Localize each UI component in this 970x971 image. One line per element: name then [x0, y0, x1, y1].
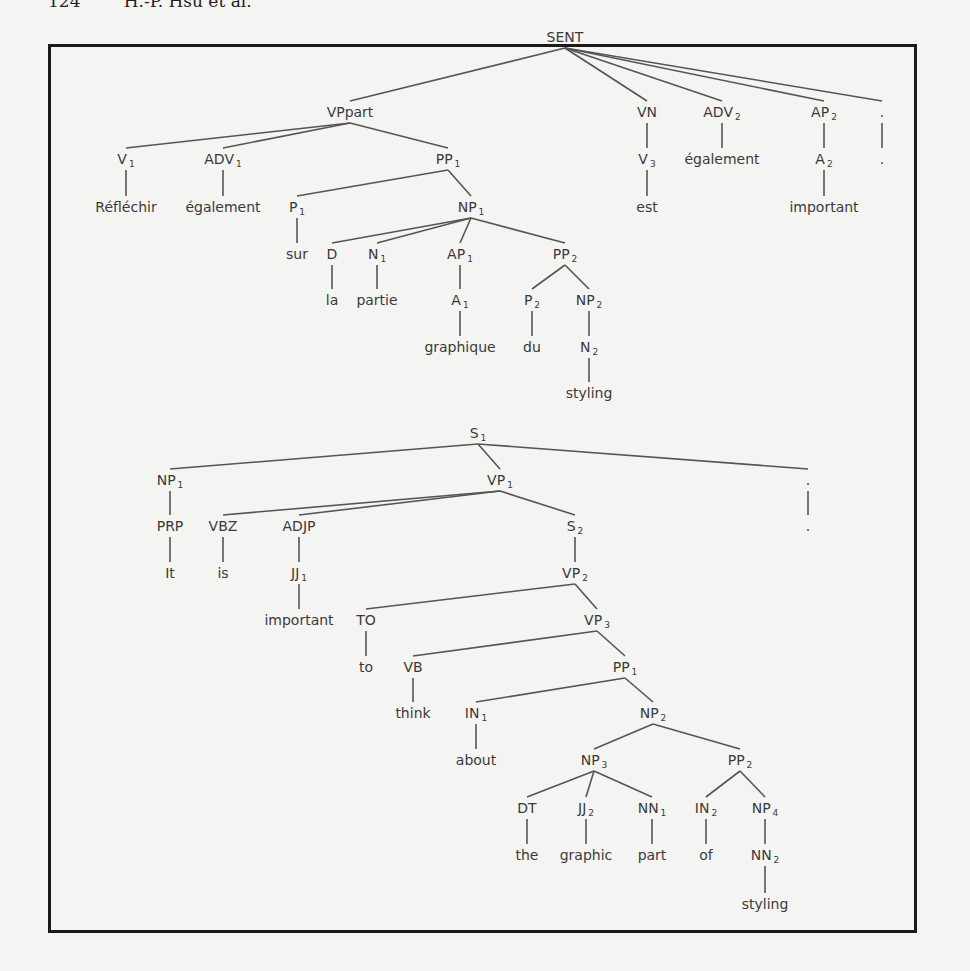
tree-edge — [500, 491, 575, 515]
tree-edge — [594, 724, 653, 749]
tree-edge — [377, 218, 471, 243]
tree-edge — [350, 123, 448, 148]
tree-node-label: ADJP — [283, 518, 316, 534]
tree-node-label: JJ2 — [577, 800, 594, 818]
parse-tree-diagram: SENTVPpartVNADV2AP2.V1ADV1PP1V3également… — [0, 0, 970, 971]
tree-node-label: . — [880, 104, 884, 120]
tree-edge — [653, 724, 740, 749]
tree-edge — [706, 771, 740, 797]
tree-leaf-word: styling — [742, 896, 789, 912]
tree-node-label: VB — [403, 659, 422, 675]
tree-leaf-word: styling — [566, 385, 613, 401]
tree-node-label: NN1 — [638, 800, 667, 818]
tree-node-label: VN — [637, 104, 657, 120]
tree-node-label: S2 — [567, 518, 584, 536]
tree-edge — [413, 631, 597, 656]
tree-node-label: PP2 — [553, 246, 578, 264]
tree-edge — [565, 48, 882, 101]
tree-node-label: NN2 — [751, 847, 780, 865]
tree-node-label: AP1 — [447, 246, 473, 264]
tree-node-label: DT — [517, 800, 537, 816]
tree-edge — [597, 631, 625, 656]
tree-node-label: N2 — [580, 339, 598, 357]
tree-edges — [126, 48, 882, 893]
tree-node-label: PRP — [157, 518, 184, 534]
tree-node-label: PP1 — [436, 151, 461, 169]
tree-leaf-word: Réfléchir — [95, 199, 157, 215]
tree-node-label: VP3 — [584, 612, 610, 630]
tree-edge — [460, 218, 471, 243]
tree-edge — [478, 444, 808, 469]
tree-leaf-word: également — [185, 199, 261, 215]
tree-node-label: N1 — [368, 246, 386, 264]
tree-edge — [170, 444, 478, 469]
tree-leaf-word: part — [638, 847, 667, 863]
tree-node-label: P1 — [289, 199, 305, 217]
tree-node-label: IN2 — [695, 800, 717, 818]
tree-leaf-word: think — [395, 705, 431, 721]
tree-edge — [350, 48, 565, 101]
tree-edge — [565, 265, 589, 289]
tree-node-label: NP3 — [581, 752, 608, 770]
tree-edge — [476, 678, 625, 702]
tree-node-label: A2 — [815, 151, 832, 169]
tree-edge — [299, 491, 500, 515]
tree-node-label: D — [327, 246, 338, 262]
tree-leaf-word: graphic — [560, 847, 613, 863]
tree-leaf-word: la — [326, 292, 338, 308]
tree-node-label: NP2 — [576, 292, 603, 310]
tree-node-label: IN1 — [465, 705, 487, 723]
tree-leaf-word: également — [684, 151, 760, 167]
tree-edge — [740, 771, 765, 797]
tree-leaf-word: important — [789, 199, 859, 215]
tree-node-label: ADV1 — [204, 151, 241, 169]
tree-node-label: NP4 — [752, 800, 779, 818]
tree-node-label: A1 — [451, 292, 468, 310]
tree-leaf-word: to — [359, 659, 373, 675]
tree-node-label: SENT — [547, 29, 584, 45]
tree-node-label: VPpart — [327, 104, 374, 120]
tree-node-label: VP1 — [487, 472, 513, 490]
tree-edge — [575, 584, 597, 609]
tree-edge — [532, 265, 565, 289]
tree-edge — [527, 771, 594, 797]
tree-leaf-word: It — [165, 565, 175, 581]
tree-node-label: . — [806, 472, 810, 488]
tree-node-label: ADV2 — [703, 104, 740, 122]
tree-node-label: NP1 — [458, 199, 485, 217]
tree-edge — [586, 771, 594, 797]
tree-edge — [297, 170, 448, 196]
tree-leaf-word: du — [523, 339, 541, 355]
tree-node-label: VBZ — [209, 518, 238, 534]
tree-node-label: NP2 — [640, 705, 667, 723]
tree-node-label: AP2 — [811, 104, 837, 122]
tree-edge — [332, 218, 471, 243]
tree-edge — [625, 678, 653, 702]
tree-edge — [471, 218, 565, 243]
tree-leaf-word: important — [264, 612, 334, 628]
tree-node-label: S1 — [470, 425, 487, 443]
tree-labels: SENTVPpartVNADV2AP2.V1ADV1PP1V3également… — [95, 29, 884, 912]
tree-node-label: PP2 — [728, 752, 753, 770]
tree-leaf-word: about — [456, 752, 497, 768]
tree-leaf-word: of — [699, 847, 714, 863]
tree-node-label: P2 — [524, 292, 540, 310]
tree-edge — [366, 584, 575, 609]
tree-node-label: VP2 — [562, 565, 588, 583]
tree-edge — [223, 491, 500, 515]
tree-edge — [594, 771, 652, 797]
tree-leaf-word: graphique — [424, 339, 495, 355]
tree-edge — [565, 48, 824, 101]
tree-node-label: PP1 — [613, 659, 638, 677]
tree-node-label: JJ1 — [290, 565, 307, 583]
tree-edge — [478, 444, 500, 469]
tree-edge — [448, 170, 471, 196]
tree-leaf-word: sur — [286, 246, 308, 262]
tree-leaf-word: . — [806, 518, 810, 534]
tree-node-label: V1 — [117, 151, 134, 169]
tree-node-label: V3 — [638, 151, 655, 169]
tree-leaf-word: . — [880, 151, 884, 167]
tree-node-label: TO — [355, 612, 376, 628]
tree-leaf-word: the — [516, 847, 539, 863]
tree-leaf-word: is — [217, 565, 228, 581]
